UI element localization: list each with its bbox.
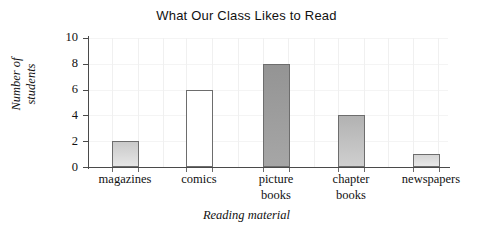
x-category-label-line: books: [316, 188, 386, 204]
gridline-horizontal: [88, 38, 448, 39]
x-category-label-line: magazines: [85, 172, 165, 188]
plot-area: [88, 38, 448, 167]
x-category-label-chapter-books: chapter books: [316, 172, 386, 203]
bar-chapter-books: [338, 115, 365, 167]
y-tick-label-2: 2: [56, 135, 78, 148]
bar-picture-books: [263, 64, 290, 167]
y-tick-label-6: 6: [56, 83, 78, 96]
x-category-label-line: picture: [241, 172, 311, 188]
x-category-label-line: books: [241, 188, 311, 204]
x-axis-label: Reading material: [0, 208, 493, 223]
gridline-vertical: [238, 38, 239, 167]
y-tick-label-4: 4: [56, 109, 78, 122]
x-category-label-line: newspapers: [386, 172, 476, 188]
gridline-vertical: [314, 38, 315, 167]
y-axis-label-line-2: students: [24, 64, 39, 105]
y-tick-label-10: 10: [56, 31, 78, 44]
y-axis-label-line-1: Number of: [9, 57, 24, 110]
y-tick-label-8: 8: [56, 57, 78, 70]
x-category-label-magazines: magazines: [85, 172, 165, 188]
bar-newspapers: [413, 154, 440, 167]
gridline-vertical: [388, 38, 389, 167]
gridline-vertical: [413, 38, 414, 167]
bar-magazines: [112, 141, 139, 167]
x-category-label-picture-books: picture books: [241, 172, 311, 203]
gridline-vertical: [438, 38, 439, 167]
x-category-label-newspapers: newspapers: [386, 172, 476, 188]
gridline-vertical: [163, 38, 164, 167]
bar-chart: What Our Class Likes to Read Number of s…: [0, 0, 493, 232]
x-category-label-comics: comics: [164, 172, 234, 188]
bar-comics: [186, 90, 213, 167]
y-axis-line: [88, 36, 89, 169]
y-tick-label-0: 0: [56, 161, 78, 174]
x-category-label-line: comics: [164, 172, 234, 188]
x-category-label-line: chapter: [316, 172, 386, 188]
chart-title: What Our Class Likes to Read: [0, 8, 493, 23]
x-axis-line: [88, 167, 450, 168]
y-axis-label: Number of students: [0, 39, 48, 129]
